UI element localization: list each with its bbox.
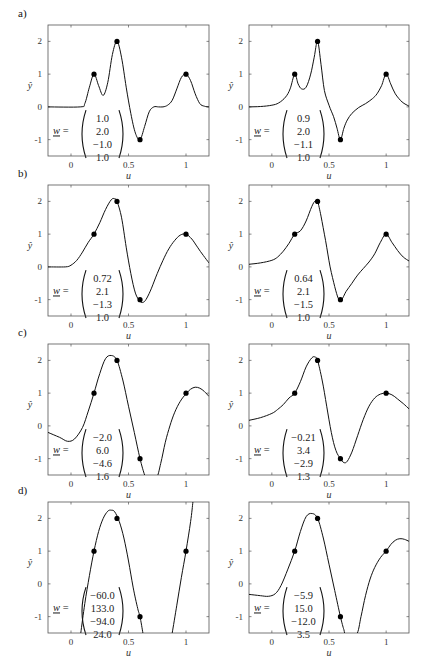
panel-a-left: a)w =1.02.0−1.01.000.51210-1uŷ [18,7,209,181]
fitted-curve [249,41,409,139]
x-tick-label: 1 [384,320,389,330]
w-entry: 2.0 [96,126,109,137]
w-entry: −1.1 [294,139,313,150]
y-axis-label: ŷ [228,240,234,251]
axes-box [249,185,409,316]
fitted-curve [249,200,409,301]
w-entry: 0.64 [294,273,313,284]
y-axis-label: ŷ [228,399,234,410]
x-tick-label: 0.5 [123,479,135,489]
w-entry: 6.0 [96,445,109,456]
w-entry: 0.72 [93,273,111,284]
w-entry: 2.0 [297,126,310,137]
panel-b-right: w =0.642.1−1.51.000.51210-1uŷ [228,185,409,341]
w-entry: −2.0 [93,432,112,443]
y-tick-label: 0 [239,262,244,272]
data-point [183,549,188,554]
data-point [384,549,389,554]
panel-c-right: w =−0.213.4−2.91.300.51210-1uŷ [228,344,409,500]
y-tick-label: 2 [38,355,43,365]
right-paren [119,270,123,318]
x-tick-label: 1 [384,479,389,489]
data-point [315,199,320,204]
x-tick-label: 1 [184,637,189,647]
data-point [183,232,188,237]
x-tick-label: 0.5 [323,479,335,489]
axes-box [249,344,409,475]
y-axis-label: ŷ [27,240,33,251]
y-tick-label: 0 [38,421,43,431]
left-paren [283,587,287,635]
axes-box [48,185,209,316]
right-paren [119,429,123,477]
w-entry: −94.0 [90,616,114,627]
data-point [114,39,119,44]
data-point [114,199,119,204]
y-tick-label: 2 [239,513,244,523]
data-point [114,516,119,521]
x-tick-label: 1 [384,160,389,170]
y-tick-label: 2 [38,36,43,46]
w-entry: 1.0 [96,113,109,124]
data-point [137,614,142,619]
x-tick-label: 0 [69,160,74,170]
axes-box [48,25,209,156]
data-point [338,456,343,461]
axes-box [48,344,209,475]
fitted-curve [48,355,209,479]
w-entry: −1.5 [294,299,313,310]
x-axis-label: u [126,330,131,341]
w-entry: −1.3 [93,299,112,310]
row-label: d) [18,484,28,497]
fitted-curve [81,510,143,633]
y-tick-label: 1 [38,388,43,398]
y-tick-label: -1 [35,295,43,305]
w-entry: 1.3 [297,471,310,482]
x-tick-label: 1 [384,637,389,647]
x-axis-label: u [327,330,332,341]
weight-vector: w =0.92.0−1.11.0 [254,110,324,163]
w-label: w = [53,125,69,136]
x-tick-label: 0.5 [123,637,135,647]
weight-vector: w =−0.213.4−2.91.3 [254,429,324,482]
row-label: b) [18,167,28,180]
data-point [315,39,320,44]
w-label: w = [53,285,69,296]
y-tick-label: 0 [239,579,244,589]
left-paren [283,110,287,158]
x-axis-label: u [126,170,131,181]
right-paren [320,429,324,477]
y-axis-label: ŷ [27,557,33,568]
weight-vector: w =−60.0133.0−94.024.0 [53,587,123,640]
w-entry: 0.9 [297,113,310,124]
w-entry: 2.1 [297,286,310,297]
weight-vector: w =−5.915.0−12.03.5 [254,587,324,640]
y-axis-label: ŷ [27,80,33,91]
fitted-curve [48,198,209,302]
y-tick-label: -1 [236,295,244,305]
axes-box [48,502,209,633]
w-entry: 15.0 [294,603,312,614]
data-point [183,72,188,77]
x-tick-label: 0 [270,637,275,647]
weight-vector: w =0.722.1−1.31.0 [53,270,123,323]
right-paren [320,587,324,635]
w-entry: −5.9 [294,590,313,601]
w-entry: 1.0 [297,312,310,323]
y-axis-label: ŷ [228,80,234,91]
y-tick-label: 2 [38,513,43,523]
figure-canvas: a)w =1.02.0−1.01.000.51210-1uŷw =0.92.0−… [0,0,430,668]
data-point [384,72,389,77]
data-point [137,297,142,302]
y-tick-label: 1 [239,546,244,556]
y-tick-label: -1 [35,612,43,622]
right-paren [320,110,324,158]
y-axis-label: ŷ [228,557,234,568]
x-tick-label: 0 [270,160,275,170]
w-entry: 3.4 [297,445,311,456]
panel-c-left: c)w =−2.06.0−4.61.600.51210-1uŷ [18,326,209,500]
x-tick-label: 0 [270,479,275,489]
w-entry: −1.0 [93,139,112,150]
weight-vector: w =1.02.0−1.01.0 [53,110,123,163]
y-tick-label: 1 [38,69,43,79]
